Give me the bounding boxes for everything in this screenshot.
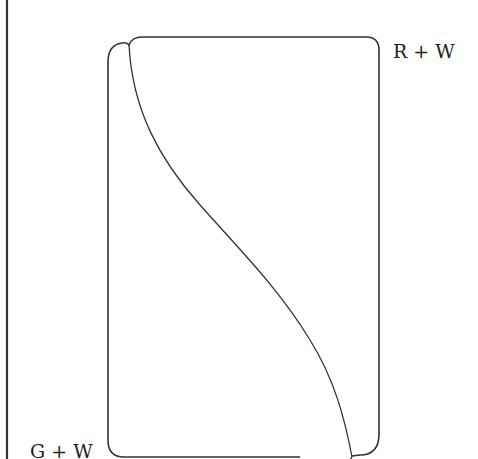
rounded-rectangle-outline — [108, 37, 379, 457]
phase-diagram — [0, 0, 478, 459]
label-green-white: G + W — [30, 442, 93, 459]
label-red-white: R + W — [393, 42, 455, 61]
s-curve — [129, 44, 352, 457]
